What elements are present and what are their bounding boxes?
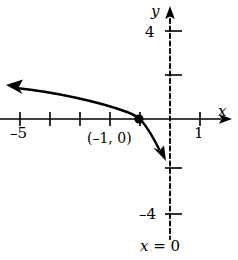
asymptote-equation-label: x = 0 <box>140 239 180 254</box>
y-tick-label-neg4: –4 <box>139 207 156 222</box>
y-axis-ticks <box>165 31 182 214</box>
point-coordinate-label: (–1, 0) <box>87 131 132 145</box>
point-marker <box>134 114 143 123</box>
curve-arrow-left <box>6 80 23 95</box>
x-tick-label-1: 1 <box>194 126 204 141</box>
y-axis-label: y <box>151 4 159 19</box>
y-tick-label-4: 4 <box>145 25 155 40</box>
x-axis-label: x <box>218 104 226 119</box>
graph-figure: y x 4 –4 –5 1 (–1, 0) x = 0 <box>0 0 238 260</box>
asymptote-equals-value: = 0 <box>148 237 180 255</box>
x-tick-label-neg5: –5 <box>10 126 27 141</box>
x-axis <box>0 114 232 124</box>
